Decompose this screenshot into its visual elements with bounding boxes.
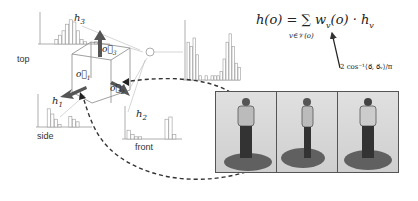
- histogram-bar: [169, 117, 172, 139]
- photo-front-view: [216, 92, 277, 172]
- histogram-bar: [173, 135, 176, 139]
- combiner-node: [146, 48, 154, 56]
- label-h3: h3: [74, 12, 85, 26]
- histogram-bar: [76, 122, 79, 127]
- combined-histogram: [183, 20, 241, 80]
- label-o1: o⃗1: [76, 69, 91, 81]
- histogram-bar: [199, 76, 202, 80]
- histogram-bar: [223, 59, 226, 80]
- histogram-bar: [51, 114, 54, 127]
- histogram-bar: [220, 72, 223, 80]
- histogram-bar: [58, 35, 61, 44]
- photo-strip: [215, 91, 399, 173]
- label-side: side: [37, 131, 54, 141]
- histogram-bar: [229, 34, 232, 80]
- histogram-bar: [80, 40, 83, 44]
- label-top: top: [17, 54, 30, 64]
- histogram-bar: [193, 38, 196, 80]
- histogram-bar: [238, 67, 241, 80]
- label-h1: h1: [52, 95, 63, 109]
- histogram-bar: [76, 31, 79, 44]
- weight-arrow: [332, 33, 340, 68]
- formula-sum-index: v∈𝒱(o): [289, 32, 314, 40]
- histogram-bar: [72, 119, 75, 127]
- histogram-bar: [131, 135, 134, 139]
- front-histogram: [122, 106, 182, 139]
- histogram-bar: [211, 76, 214, 80]
- histogram-bar: [196, 55, 199, 80]
- histogram-bar: [214, 76, 217, 80]
- formula-main: h(o) = ∑ wv(o) · hv: [256, 12, 374, 30]
- histogram-bar: [55, 40, 58, 44]
- histogram-bar: [232, 46, 235, 80]
- histogram-bar: [66, 24, 69, 44]
- histogram-bar: [138, 137, 141, 139]
- histogram-bar: [165, 119, 168, 139]
- histogram-bar: [190, 46, 193, 80]
- histogram-bar: [127, 130, 130, 139]
- label-h2: h2: [136, 108, 147, 122]
- photo-side-view: [277, 92, 338, 172]
- histogram-bar: [187, 42, 190, 80]
- histogram-bar: [226, 42, 229, 80]
- label-front: front: [135, 142, 153, 152]
- histogram-bar: [84, 42, 87, 44]
- formula-weight: 2 cos⁻¹⟨o⃗, o⃗ᵥ⟩/π: [340, 63, 392, 71]
- label-o2: o⃗2: [110, 83, 125, 95]
- histogram-bar: [205, 76, 208, 80]
- photo-back-view: [338, 92, 398, 172]
- histogram-bar: [47, 109, 50, 127]
- histogram-bar: [69, 20, 72, 44]
- side-histogram: [36, 94, 92, 127]
- histogram-bar: [58, 124, 61, 127]
- histogram-bar: [135, 137, 138, 139]
- histogram-bar: [217, 76, 220, 80]
- histogram-bar: [62, 31, 65, 44]
- histogram-bar: [69, 117, 72, 127]
- histogram-bar: [235, 63, 238, 80]
- histogram-bar: [54, 119, 57, 127]
- label-o3: o⃗3: [102, 44, 117, 56]
